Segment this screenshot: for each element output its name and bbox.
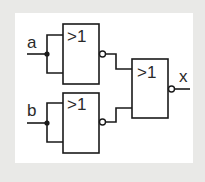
output-x-label: x — [179, 67, 188, 86]
gate-1: >1 — [63, 24, 106, 84]
gate-2: >1 — [63, 93, 106, 153]
junction-dot — [44, 120, 49, 125]
gate-3-symbol: >1 — [137, 63, 156, 82]
gate-1-symbol: >1 — [67, 27, 86, 46]
inversion-bubble — [100, 51, 106, 57]
inversion-bubble — [169, 86, 175, 92]
wire-g2-g3 — [106, 108, 133, 122]
input-a: a — [27, 33, 63, 73]
inversion-bubble — [100, 119, 106, 125]
input-b-label: b — [27, 101, 36, 120]
input-b: b — [27, 101, 63, 142]
gate-2-symbol: >1 — [67, 95, 86, 114]
wire-g1-g3 — [106, 54, 133, 69]
input-a-label: a — [27, 33, 37, 52]
junction-dot — [44, 51, 49, 56]
logic-diagram: a >1 b >1 >1 x — [0, 0, 205, 182]
